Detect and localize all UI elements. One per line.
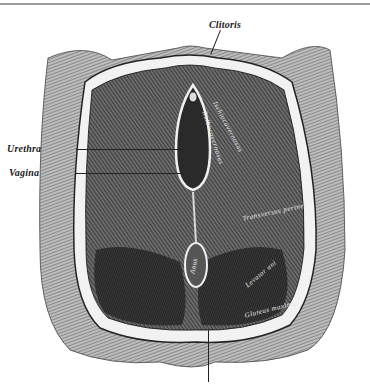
label-clitoris: Clitoris [209,19,241,30]
label-vagina: Vagina [9,167,39,178]
leader-vagina [76,173,184,174]
label-urethra: Urethra [7,143,41,154]
gluteus-right [198,247,288,326]
leader-urethra [76,149,184,150]
perineum-illustration [0,0,370,389]
urethral-meatus [189,92,197,102]
leader-bottom [208,330,209,382]
gluteus-left [94,247,185,326]
